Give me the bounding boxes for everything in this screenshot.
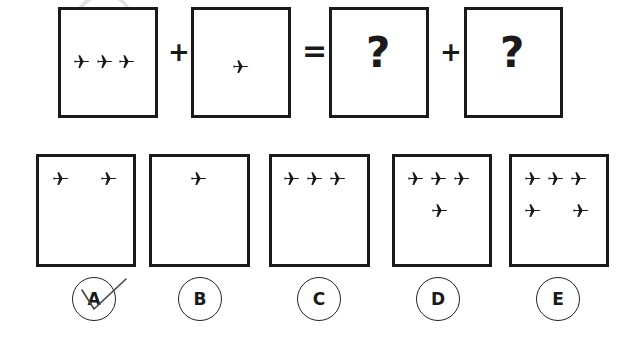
airplane-icon [572,202,589,219]
question-mark: ? [500,32,524,74]
airplane-icon [430,170,447,187]
airplane-icon [453,170,470,187]
airplane-icon [306,170,323,187]
airplane-icon [431,202,448,219]
airplane-icon [407,170,424,187]
option-box-b[interactable] [149,154,250,267]
airplane-icon [283,170,300,187]
airplane-icon [547,170,564,187]
airplane-icon [52,170,69,187]
answer-box-1: ? [329,7,429,118]
question-box-2 [191,7,291,118]
checkmark-icon [78,276,130,322]
option-label-c[interactable]: C [297,277,341,321]
airplane-icon [96,53,113,70]
option-box-c[interactable] [269,154,370,267]
option-label-b[interactable]: B [178,277,222,321]
option-box-d[interactable] [392,154,492,267]
question-box-1 [58,7,158,118]
question-mark: ? [366,32,390,74]
option-label-d[interactable]: D [416,277,460,321]
plus-operator: + [440,39,462,65]
airplane-icon [118,53,135,70]
option-label-e[interactable]: E [536,277,580,321]
airplane-icon [232,58,249,75]
airplane-icon [190,170,207,187]
airplane-icon [329,170,346,187]
airplane-icon [73,53,90,70]
plus-operator: + [168,39,190,65]
answer-box-2: ? [464,7,563,118]
option-box-a[interactable] [36,154,136,267]
airplane-icon [524,170,541,187]
option-box-e[interactable] [509,154,609,267]
equals-operator: = [302,36,327,66]
airplane-icon [524,202,541,219]
airplane-icon [570,170,587,187]
airplane-icon [100,170,117,187]
